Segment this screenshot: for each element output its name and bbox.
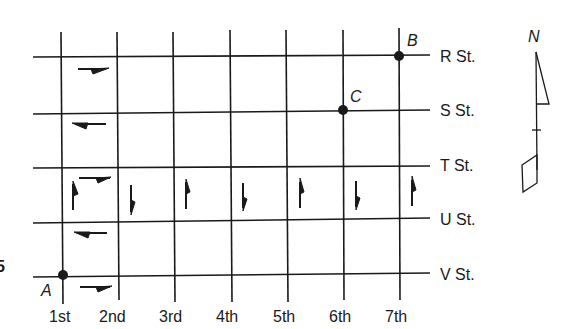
point-b-label: B bbox=[407, 32, 418, 49]
street-label-s: S St. bbox=[440, 102, 475, 119]
arrow-south-icon bbox=[356, 181, 360, 210]
compass-north-label: N bbox=[528, 28, 540, 45]
avenue-line-7th bbox=[399, 28, 400, 300]
street-label-t: T St. bbox=[440, 157, 474, 174]
avenue-label-2nd: 2nd bbox=[99, 308, 126, 325]
street-grid-diagram: A B C R St. S St. T St. U St. V St. 1st … bbox=[0, 0, 568, 329]
avenue-line-4th bbox=[230, 30, 232, 302]
street-label-r: R St. bbox=[440, 48, 476, 65]
avenue-label-1st: 1st bbox=[49, 308, 71, 325]
figure-number-fragment: 5 bbox=[0, 258, 5, 275]
arrow-north-icon bbox=[186, 179, 190, 209]
arrow-west-icon bbox=[72, 123, 106, 129]
avenue-label-6th: 6th bbox=[329, 308, 351, 325]
point-c-marker bbox=[338, 105, 348, 115]
street-label-v: V St. bbox=[440, 266, 475, 283]
avenue-label-7th: 7th bbox=[385, 308, 407, 325]
avenue-line-6th bbox=[343, 30, 344, 300]
arrow-west-icon bbox=[74, 232, 107, 238]
street-label-u: U St. bbox=[440, 211, 476, 228]
avenue-line-5th bbox=[286, 30, 288, 302]
arrow-north-icon bbox=[73, 181, 78, 210]
avenue-line-3rd bbox=[173, 32, 175, 302]
point-c-label: C bbox=[350, 88, 362, 105]
avenue-label-4th: 4th bbox=[216, 308, 238, 325]
arrow-north-icon bbox=[412, 176, 416, 206]
arrow-north-icon bbox=[300, 178, 304, 208]
street-line-r bbox=[33, 55, 430, 57]
avenue-label-5th: 5th bbox=[273, 308, 295, 325]
avenue-label-3rd: 3rd bbox=[159, 308, 182, 325]
point-b-marker bbox=[394, 51, 404, 61]
one-way-arrows-vertical bbox=[73, 176, 416, 215]
arrow-east-icon bbox=[79, 177, 111, 183]
north-compass-icon bbox=[522, 52, 549, 192]
street-line-s bbox=[33, 110, 430, 114]
avenue-line-1st bbox=[61, 32, 63, 304]
point-a-marker bbox=[58, 270, 68, 280]
arrow-east-icon bbox=[80, 286, 112, 292]
avenue-line-2nd bbox=[117, 32, 119, 300]
arrow-east-icon bbox=[78, 68, 109, 74]
point-a-label: A bbox=[40, 282, 52, 299]
arrow-south-icon bbox=[243, 183, 247, 211]
one-way-arrows-horizontal bbox=[72, 68, 112, 292]
arrow-south-icon bbox=[131, 185, 135, 215]
